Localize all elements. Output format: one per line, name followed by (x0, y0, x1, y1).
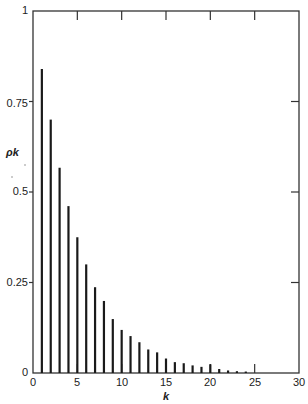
y-tick-label-0.75: 0.75 (0, 98, 28, 109)
plot-frame (33, 11, 299, 373)
data-bars (42, 69, 246, 373)
x-tick-label-5: 5 (65, 377, 89, 388)
y-axis-title: ρk (6, 146, 19, 158)
y-tick-label-1: 1 (0, 5, 28, 16)
acf-chart (0, 0, 308, 404)
y-tick-label-0.5: 0.5 (0, 186, 28, 197)
x-axis-title: k (163, 390, 169, 402)
x-tick-label-30: 30 (287, 377, 308, 388)
scan-speck (11, 176, 13, 178)
x-tick-label-20: 20 (198, 377, 222, 388)
axes-box (33, 11, 299, 373)
y-tick-label-0.25: 0.25 (0, 277, 28, 288)
x-tick-label-15: 15 (154, 377, 178, 388)
x-tick-label-0: 0 (21, 377, 45, 388)
scan-speck (24, 164, 26, 166)
x-tick-label-25: 25 (243, 377, 267, 388)
x-tick-label-10: 10 (110, 377, 134, 388)
